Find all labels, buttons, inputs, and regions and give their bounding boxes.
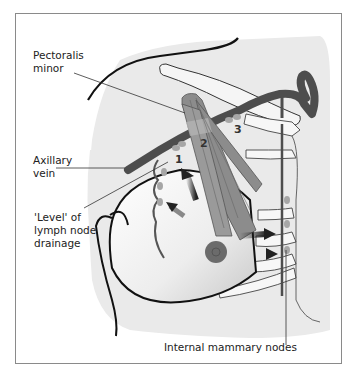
level-3: 3: [234, 123, 242, 136]
nipple: [205, 241, 227, 263]
label-pectoralis-minor: Pectoralis minor: [33, 49, 84, 75]
level-1: 1: [175, 153, 183, 166]
label-line: Pectoralis: [33, 49, 84, 62]
label-line: vein: [33, 167, 72, 180]
label-line: drainage: [34, 237, 96, 250]
level-2: 2: [200, 137, 208, 150]
label-line: 'Level' of: [34, 211, 96, 224]
label-internal-mammary-nodes: Internal mammary nodes: [164, 341, 297, 354]
label-line: lymph node: [34, 224, 96, 237]
label-line: minor: [33, 62, 84, 75]
label-line: Axillary: [33, 154, 72, 167]
label-level-drainage: 'Level' of lymph node drainage: [34, 211, 96, 250]
label-axillary-vein: Axillary vein: [33, 154, 72, 180]
